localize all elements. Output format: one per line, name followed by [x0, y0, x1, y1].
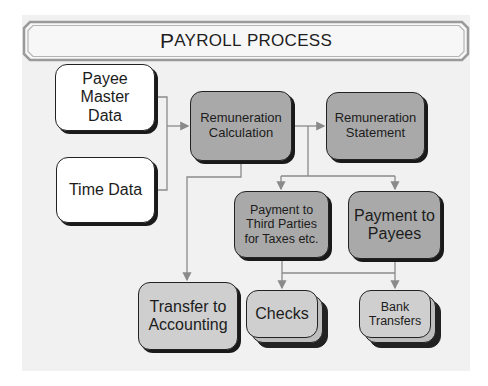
node-label: Bank — [369, 300, 421, 314]
node-payment-payees[interactable]: Payment to Payees — [348, 191, 441, 259]
node-label: Remuneration — [335, 111, 417, 126]
input-merge-line — [155, 97, 167, 190]
node-time-data[interactable]: Time Data — [56, 157, 155, 223]
node-transfer-accounting[interactable]: Transfer to Accounting — [138, 282, 238, 350]
node-label: Remuneration — [200, 111, 282, 126]
node-checks[interactable]: Checks — [246, 290, 318, 338]
node-remuneration-calculation[interactable]: Remuneration Calculation — [190, 91, 292, 161]
node-payee-master-data[interactable]: Payee Master Data — [55, 64, 155, 131]
node-label: for Taxes etc. — [244, 232, 318, 246]
node-label: Third Parties — [244, 217, 318, 231]
node-label: Time Data — [69, 181, 142, 199]
node-label: Payee — [81, 70, 130, 88]
node-label: Calculation — [200, 126, 282, 141]
node-label: Payees — [354, 225, 435, 243]
node-label: Accounting — [148, 316, 227, 334]
node-bank-transfers[interactable]: Bank Transfers — [359, 290, 431, 338]
node-label: Statement — [335, 126, 417, 141]
node-payment-third-parties[interactable]: Payment to Third Parties for Taxes etc. — [234, 191, 329, 258]
node-label: Transfer to — [148, 298, 227, 316]
node-label: Payment to — [354, 207, 435, 225]
node-label: Payment to — [244, 203, 318, 217]
node-label: Checks — [255, 305, 308, 323]
node-label: Data — [81, 107, 130, 125]
node-label: Master — [81, 88, 130, 106]
node-remuneration-statement[interactable]: Remuneration Statement — [326, 92, 425, 160]
arrow-to-accounting — [187, 162, 241, 280]
node-label: Transfers — [369, 314, 421, 328]
